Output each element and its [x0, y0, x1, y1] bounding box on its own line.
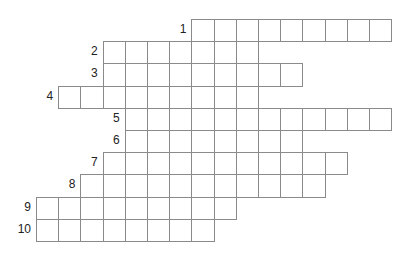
- clue-number: 8: [55, 177, 75, 191]
- crossword-cell[interactable]: [325, 19, 348, 42]
- crossword-cell[interactable]: [147, 63, 170, 86]
- crossword-cell[interactable]: [191, 130, 214, 153]
- crossword-cell[interactable]: [258, 108, 281, 131]
- crossword-cell[interactable]: [147, 108, 170, 131]
- crossword-cell[interactable]: [147, 152, 170, 175]
- crossword-cell[interactable]: [80, 219, 103, 242]
- clue-number: 3: [78, 66, 98, 80]
- crossword-cell[interactable]: [58, 197, 81, 220]
- crossword-cell[interactable]: [280, 152, 303, 175]
- crossword-cell[interactable]: [236, 86, 259, 109]
- crossword-cell[interactable]: [214, 41, 237, 64]
- crossword-cell[interactable]: [236, 152, 259, 175]
- crossword-cell[interactable]: [169, 197, 192, 220]
- crossword-cell[interactable]: [325, 152, 348, 175]
- crossword-cell[interactable]: [369, 108, 392, 131]
- crossword-cell[interactable]: [125, 219, 148, 242]
- crossword-cell[interactable]: [369, 19, 392, 42]
- crossword-cell[interactable]: [169, 63, 192, 86]
- crossword-cell[interactable]: [280, 63, 303, 86]
- crossword-cell[interactable]: [236, 108, 259, 131]
- crossword-cell[interactable]: [236, 130, 259, 153]
- crossword-cell[interactable]: [236, 19, 259, 42]
- crossword-cell[interactable]: [258, 63, 281, 86]
- crossword-cell[interactable]: [169, 41, 192, 64]
- crossword-cell[interactable]: [280, 174, 303, 197]
- crossword-cell[interactable]: [191, 86, 214, 109]
- crossword-cell[interactable]: [103, 63, 126, 86]
- crossword-cell[interactable]: [103, 41, 126, 64]
- crossword-cell[interactable]: [236, 63, 259, 86]
- crossword-cell[interactable]: [191, 174, 214, 197]
- crossword-cell[interactable]: [36, 197, 59, 220]
- crossword-cell[interactable]: [125, 86, 148, 109]
- crossword-cell[interactable]: [80, 86, 103, 109]
- crossword-cell[interactable]: [214, 174, 237, 197]
- crossword-cell[interactable]: [214, 130, 237, 153]
- crossword-cell[interactable]: [58, 219, 81, 242]
- crossword-cell[interactable]: [325, 108, 348, 131]
- crossword-cell[interactable]: [125, 197, 148, 220]
- crossword-cell[interactable]: [169, 86, 192, 109]
- clue-number: 5: [100, 111, 120, 125]
- crossword-cell[interactable]: [347, 19, 370, 42]
- crossword-grid: 12345678910: [0, 0, 413, 256]
- crossword-cell[interactable]: [191, 41, 214, 64]
- crossword-cell[interactable]: [169, 152, 192, 175]
- crossword-cell[interactable]: [125, 63, 148, 86]
- crossword-cell[interactable]: [103, 86, 126, 109]
- crossword-cell[interactable]: [258, 130, 281, 153]
- crossword-cell[interactable]: [125, 152, 148, 175]
- crossword-cell[interactable]: [280, 130, 303, 153]
- crossword-cell[interactable]: [280, 19, 303, 42]
- crossword-cell[interactable]: [103, 174, 126, 197]
- crossword-cell[interactable]: [214, 19, 237, 42]
- crossword-cell[interactable]: [302, 19, 325, 42]
- crossword-cell[interactable]: [214, 152, 237, 175]
- crossword-cell[interactable]: [103, 152, 126, 175]
- crossword-cell[interactable]: [191, 152, 214, 175]
- crossword-cell[interactable]: [125, 130, 148, 153]
- crossword-cell[interactable]: [169, 108, 192, 131]
- crossword-cell[interactable]: [214, 86, 237, 109]
- crossword-cell[interactable]: [103, 197, 126, 220]
- crossword-cell[interactable]: [258, 174, 281, 197]
- crossword-cell[interactable]: [80, 174, 103, 197]
- crossword-cell[interactable]: [147, 174, 170, 197]
- crossword-cell[interactable]: [214, 197, 237, 220]
- crossword-cell[interactable]: [236, 41, 259, 64]
- crossword-cell[interactable]: [169, 174, 192, 197]
- crossword-cell[interactable]: [191, 19, 214, 42]
- crossword-cell[interactable]: [280, 108, 303, 131]
- crossword-cell[interactable]: [191, 108, 214, 131]
- crossword-cell[interactable]: [147, 130, 170, 153]
- crossword-cell[interactable]: [236, 174, 259, 197]
- crossword-cell[interactable]: [191, 219, 214, 242]
- crossword-cell[interactable]: [191, 197, 214, 220]
- crossword-cell[interactable]: [80, 197, 103, 220]
- crossword-cell[interactable]: [214, 108, 237, 131]
- crossword-cell[interactable]: [258, 152, 281, 175]
- clue-number: 9: [11, 200, 31, 214]
- crossword-cell[interactable]: [147, 197, 170, 220]
- crossword-cell[interactable]: [103, 219, 126, 242]
- crossword-cell[interactable]: [125, 108, 148, 131]
- crossword-cell[interactable]: [147, 219, 170, 242]
- crossword-cell[interactable]: [258, 19, 281, 42]
- crossword-cell[interactable]: [214, 63, 237, 86]
- crossword-cell[interactable]: [191, 63, 214, 86]
- crossword-cell[interactable]: [302, 108, 325, 131]
- crossword-cell[interactable]: [58, 86, 81, 109]
- crossword-cell[interactable]: [147, 86, 170, 109]
- crossword-cell[interactable]: [302, 152, 325, 175]
- crossword-cell[interactable]: [147, 41, 170, 64]
- crossword-cell[interactable]: [169, 130, 192, 153]
- crossword-cell[interactable]: [36, 219, 59, 242]
- crossword-cell[interactable]: [302, 174, 325, 197]
- crossword-cell[interactable]: [125, 41, 148, 64]
- clue-number: 7: [78, 155, 98, 169]
- crossword-cell[interactable]: [169, 219, 192, 242]
- crossword-cell[interactable]: [347, 108, 370, 131]
- clue-number: 4: [33, 89, 53, 103]
- crossword-cell[interactable]: [125, 174, 148, 197]
